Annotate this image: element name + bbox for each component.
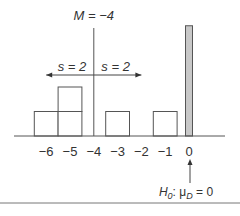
frequency-boxes xyxy=(34,87,177,136)
x-tick-label: −6 xyxy=(39,144,54,159)
frequency-box xyxy=(58,87,82,112)
frequency-box xyxy=(34,112,58,137)
x-tick-label: −2 xyxy=(134,144,149,159)
hypothesis-arrowhead xyxy=(188,159,193,165)
x-tick-label: −5 xyxy=(63,144,78,159)
std-dev-right-label: s = 2 xyxy=(101,59,130,74)
x-tick-label: −3 xyxy=(110,144,125,159)
arrowhead-right xyxy=(135,73,141,78)
distribution-chart: −6−5−4−3−2−10 M = −4 s = 2 s = 2 H0: μD … xyxy=(0,0,240,216)
x-tick-label: −1 xyxy=(158,144,173,159)
mean-label: M = −4 xyxy=(74,8,114,23)
std-dev-left-label: s = 2 xyxy=(58,59,87,74)
x-tick-label: 0 xyxy=(185,144,192,159)
hypothesis-arrow xyxy=(188,159,193,183)
x-tick-label: −4 xyxy=(86,144,101,159)
x-tick-labels: −6−5−4−3−2−10 xyxy=(39,144,193,159)
frequency-box xyxy=(153,112,177,137)
frequency-box xyxy=(106,112,130,137)
frequency-box xyxy=(58,112,82,137)
hypothesis-bar xyxy=(186,26,193,136)
arrowhead-left xyxy=(46,73,52,78)
hypothesis-label: H0: μD = 0 xyxy=(159,185,213,201)
